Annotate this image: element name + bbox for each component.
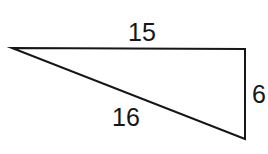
triangle-figure: 15 16 6 xyxy=(0,0,268,154)
side-length-label-hypotenuse: 16 xyxy=(112,105,140,130)
side-length-label-top: 15 xyxy=(128,20,156,45)
side-length-label-right: 6 xyxy=(252,82,266,107)
